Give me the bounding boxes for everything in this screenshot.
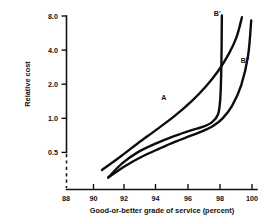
x-tick-label-92: 92: [120, 194, 128, 203]
y-tick-label-0-5: 0.5: [48, 148, 58, 157]
y-tick-label-2: 2.0: [48, 80, 58, 89]
x-axis-ticks: [94, 184, 253, 190]
y-axis-title: Relative cost: [23, 61, 32, 107]
relative-cost-vs-grade-of-service-chart: 8.0 4.0 2.0 1.0 0.5 88 90 92 94 96 98 10…: [0, 0, 279, 224]
y-tick-label-4: 4.0: [48, 46, 58, 55]
curve-label-b-prime: B': [214, 10, 221, 17]
x-tick-label-96: 96: [184, 194, 192, 203]
x-tick-label-98: 98: [216, 194, 224, 203]
chart-container: 8.0 4.0 2.0 1.0 0.5 88 90 92 94 96 98 10…: [0, 0, 279, 224]
x-tick-label-94: 94: [152, 194, 160, 203]
x-tick-label-90: 90: [90, 194, 98, 203]
x-axis-title: Good-or-better grade of service (percent…: [90, 206, 235, 215]
y-tick-label-1: 1.0: [48, 114, 58, 123]
curve-label-b-double-prime: B'': [241, 57, 250, 64]
curve-b-double-prime: [108, 21, 251, 178]
y-tick-label-8: 8.0: [48, 12, 58, 21]
curve-label-a: A: [161, 94, 166, 101]
x-tick-label-100: 100: [246, 194, 258, 203]
x-tick-label-88: 88: [62, 194, 70, 203]
